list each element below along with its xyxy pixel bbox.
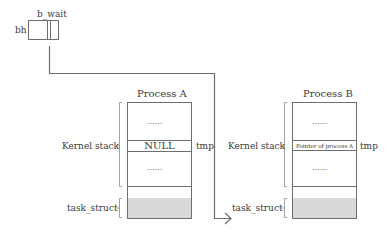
process-a-kernel-stack-label: Kernel stack	[62, 141, 119, 151]
process-a-tmp-label: tmp	[196, 141, 214, 151]
bh-label: bh	[15, 25, 27, 35]
process-a-dots-top: ......	[147, 117, 162, 127]
process-b-dots-bottom: ......	[312, 163, 327, 173]
b-wait-pointer-line	[50, 46, 231, 219]
bh-box	[29, 21, 59, 40]
process-b-kernel-stack-label: Kernel stack	[228, 141, 285, 151]
process-b-title: Process B	[303, 89, 353, 99]
process-a-null-slot: NULL	[127, 141, 192, 151]
process-a-dots-bottom: ......	[147, 163, 162, 173]
b-wait-label: b_wait	[37, 9, 67, 19]
process-b-tmp-label: tmp	[360, 141, 378, 151]
diagram-lines	[0, 0, 392, 236]
process-b-dots-top: ......	[312, 117, 327, 127]
process-a-title: Process A	[137, 89, 187, 99]
process-b-task-struct-label: task_struct	[232, 203, 283, 213]
process-a-task-struct-label: task_struct	[67, 203, 118, 213]
process-b-pointer-slot: Pointer of process A	[292, 142, 357, 150]
